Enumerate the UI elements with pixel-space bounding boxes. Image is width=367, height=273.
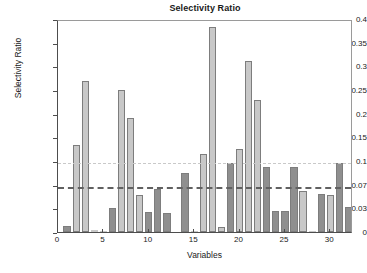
bar: [318, 194, 325, 232]
bar: [100, 231, 107, 232]
x-axis-label: Variables: [57, 250, 352, 260]
y-axis-tick-mark: [53, 233, 57, 234]
plot-area: [57, 20, 352, 233]
x-axis-tick-label: 25: [269, 236, 299, 244]
bar: [227, 163, 234, 232]
bar: [136, 195, 143, 232]
x-axis-tick-mark: [329, 229, 330, 233]
x-axis-tick-label: 20: [224, 236, 254, 244]
bar: [209, 27, 216, 232]
bar: [91, 230, 98, 232]
bar: [336, 163, 343, 232]
chart-title: Selectivity Ratio: [57, 3, 353, 13]
x-axis-tick-label: 0: [42, 236, 72, 244]
bar: [127, 118, 134, 232]
x-axis-tick-mark: [102, 229, 103, 233]
y-axis-label: Selectivity Ratio: [13, 4, 23, 132]
bar: [73, 145, 80, 232]
bar: [200, 154, 207, 232]
x-axis-tick-label: 30: [314, 236, 344, 244]
bar: [345, 207, 352, 232]
x-axis-tick-mark: [148, 229, 149, 233]
bar: [109, 208, 116, 232]
bar: [82, 81, 89, 232]
bar: [272, 211, 279, 232]
x-axis-tick-mark: [239, 229, 240, 233]
x-axis-tick-label: 5: [87, 236, 117, 244]
bar: [263, 167, 270, 232]
bar: [236, 149, 243, 232]
x-axis-tick-mark: [57, 229, 58, 233]
bar: [218, 227, 225, 232]
bar: [309, 231, 316, 232]
bar: [181, 173, 188, 232]
bar: [163, 213, 170, 232]
reference-line-lower-threshold: [58, 187, 351, 189]
bar: [63, 226, 70, 232]
bar: [245, 61, 252, 232]
bar: [290, 167, 297, 232]
bar: [154, 189, 161, 232]
reference-line-upper-threshold: [58, 163, 351, 164]
x-axis-tick-label: 15: [178, 236, 208, 244]
selectivity-ratio-chart-figure: Selectivity Ratio Selectivity Ratio 00.0…: [0, 0, 367, 273]
x-axis-tick-mark: [284, 229, 285, 233]
bar: [191, 231, 198, 232]
x-axis-tick-label: 10: [133, 236, 163, 244]
x-axis-tick-mark: [193, 229, 194, 233]
bar: [118, 90, 125, 232]
bar: [327, 195, 334, 232]
bar: [254, 100, 261, 232]
bar: [299, 191, 306, 232]
